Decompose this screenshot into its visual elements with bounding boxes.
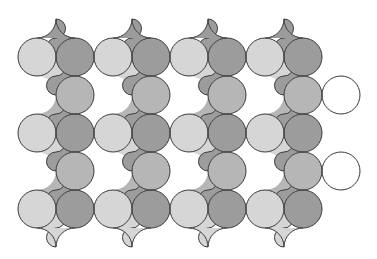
tile-lobe (322, 152, 360, 190)
tile-lobe (322, 76, 360, 114)
tessellation-canvas (0, 0, 377, 259)
